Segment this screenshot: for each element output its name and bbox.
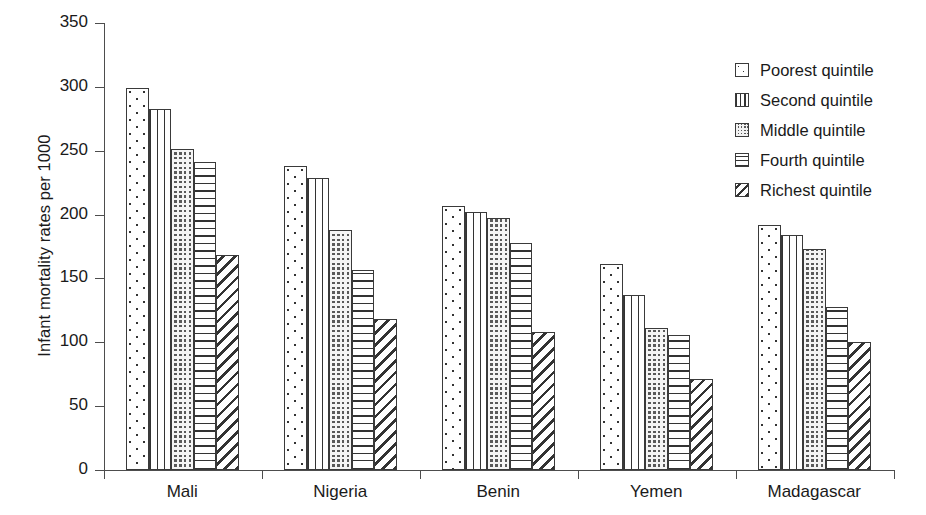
x-axis-category-label: Nigeria [250, 482, 430, 502]
bar [826, 307, 849, 470]
bar-group [600, 23, 713, 470]
bar [668, 335, 691, 470]
bar [532, 332, 555, 470]
legend-item: Richest quintile [735, 175, 925, 205]
x-axis-tick-mark [578, 470, 579, 479]
y-axis-tick-label: 250 [28, 140, 88, 160]
legend-item: Second quintile [735, 85, 925, 115]
y-axis-tick-mark [95, 406, 104, 407]
chart-legend: Poorest quintileSecond quintileMiddle qu… [735, 55, 925, 205]
legend-label: Poorest quintile [760, 61, 874, 80]
bar [510, 243, 533, 470]
bar [645, 328, 668, 470]
x-axis-tick-mark [104, 470, 105, 479]
bar-group [126, 23, 239, 470]
legend-label: Fourth quintile [760, 151, 865, 170]
y-axis-tick-label: 300 [28, 76, 88, 96]
y-axis-tick-mark [95, 278, 104, 279]
y-axis-tick-mark [95, 23, 104, 24]
y-axis-tick-label: 100 [28, 331, 88, 351]
legend-item: Poorest quintile [735, 55, 925, 85]
x-axis-tick-mark [894, 470, 895, 479]
y-axis-title: Infant mortality rates per 1000 [35, 66, 54, 426]
x-axis-category-label: Benin [408, 482, 588, 502]
legend-item: Middle quintile [735, 115, 925, 145]
bar-group [284, 23, 397, 470]
y-axis-tick-label: 0 [28, 459, 88, 479]
x-axis-category-label: Yemen [566, 482, 746, 502]
bar [194, 162, 217, 470]
y-axis-tick-mark [95, 151, 104, 152]
legend-label: Richest quintile [760, 181, 872, 200]
bar [352, 270, 375, 471]
x-axis-line [104, 470, 894, 471]
bar [758, 225, 781, 470]
bar [442, 206, 465, 470]
x-axis-tick-mark [262, 470, 263, 479]
bar [487, 218, 510, 470]
bar [374, 319, 397, 470]
y-axis-tick-label: 150 [28, 267, 88, 287]
y-axis-tick-mark [95, 215, 104, 216]
y-axis-tick-label: 50 [28, 395, 88, 415]
bar-group [442, 23, 555, 470]
legend-swatch-icon [735, 63, 749, 77]
bar [803, 249, 826, 470]
y-axis-tick-mark [95, 342, 104, 343]
legend-swatch-icon [735, 93, 749, 107]
legend-label: Second quintile [760, 91, 873, 110]
legend-swatch-icon [735, 153, 749, 167]
bar [781, 235, 804, 470]
bar [623, 295, 646, 470]
bar [848, 342, 871, 470]
bar [149, 109, 172, 470]
x-axis-category-label: Mali [92, 482, 272, 502]
bar [126, 88, 149, 470]
y-axis-tick-mark [95, 87, 104, 88]
y-axis-tick-mark [95, 470, 104, 471]
bar [171, 149, 194, 470]
bar [216, 255, 239, 470]
bar [307, 178, 330, 470]
legend-swatch-icon [735, 123, 749, 137]
legend-swatch-icon [735, 183, 749, 197]
y-axis-tick-label: 350 [28, 12, 88, 32]
x-axis-tick-mark [420, 470, 421, 479]
bar [690, 379, 713, 470]
x-axis-tick-mark [736, 470, 737, 479]
bar [329, 230, 352, 470]
infant-mortality-bar-chart: Infant mortality rates per 1000 05010015… [0, 0, 926, 515]
legend-label: Middle quintile [760, 121, 865, 140]
bar [600, 264, 623, 470]
y-axis-tick-label: 200 [28, 204, 88, 224]
bar [284, 166, 307, 470]
legend-item: Fourth quintile [735, 145, 925, 175]
bar [465, 212, 488, 470]
x-axis-category-label: Madagascar [724, 482, 904, 502]
